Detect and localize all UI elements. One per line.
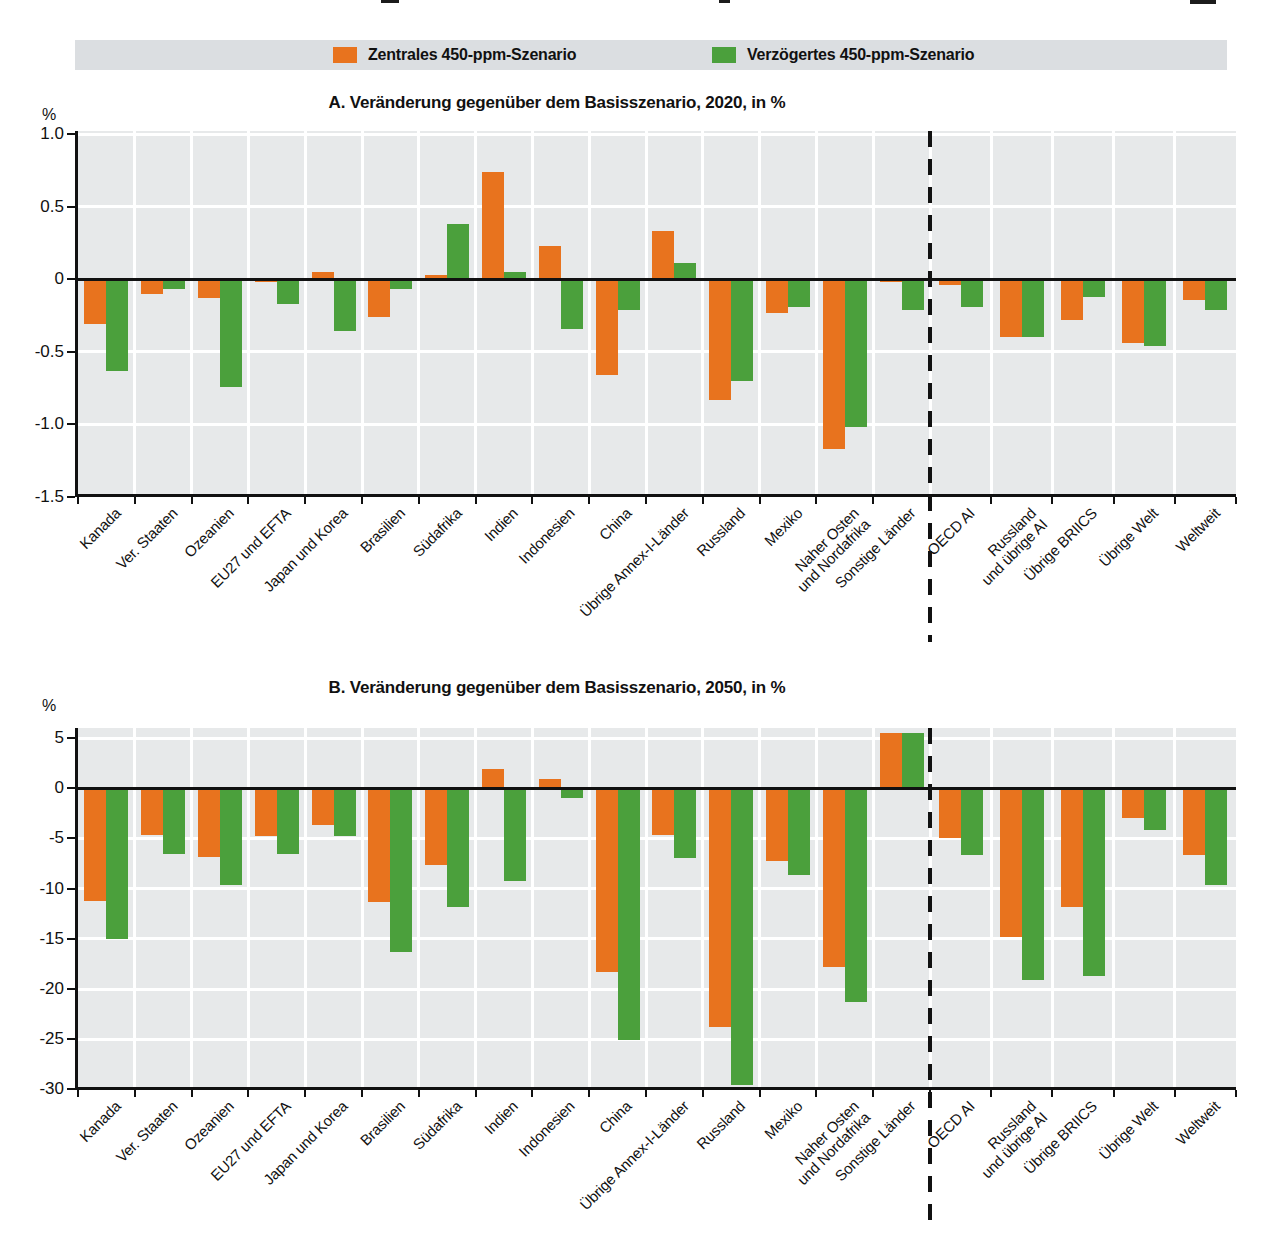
x-axis-tick: [134, 1090, 136, 1097]
x-axis-tick: [531, 1090, 533, 1097]
bar-zentrales: [1061, 279, 1083, 320]
gridline-vertical: [417, 131, 420, 497]
x-axis-line: [75, 1087, 1236, 1090]
bar-zentrales: [141, 279, 163, 294]
bar-verzoegertes: [902, 279, 924, 309]
bar-zentrales: [482, 172, 504, 279]
bar-zentrales: [1122, 279, 1144, 343]
y-tick-label: -1.5: [18, 487, 64, 507]
y-tick-label: -20: [18, 979, 64, 999]
gridline-vertical: [758, 131, 761, 497]
bar-verzoegertes: [1144, 279, 1166, 346]
x-axis-tick: [1174, 1090, 1176, 1097]
bar-zentrales: [766, 788, 788, 861]
scan-crop-artifact: [381, 0, 399, 3]
y-axis-tick: [67, 496, 75, 498]
x-axis-tick: [361, 1090, 363, 1097]
x-axis-tick: [702, 1090, 704, 1097]
bar-verzoegertes: [334, 788, 356, 836]
bar-zentrales: [539, 246, 561, 279]
gridline-vertical: [1173, 131, 1176, 497]
bar-verzoegertes: [845, 279, 867, 427]
gridline-vertical: [304, 131, 307, 497]
bar-verzoegertes: [1205, 279, 1227, 309]
x-axis-tick: [990, 1090, 992, 1097]
x-axis-tick: [191, 1090, 193, 1097]
zero-baseline: [78, 278, 1236, 281]
bar-verzoegertes: [163, 279, 185, 289]
bar-verzoegertes: [561, 788, 583, 798]
gridline-vertical: [1173, 728, 1176, 1090]
x-axis-tick: [531, 497, 533, 504]
bar-zentrales: [880, 733, 902, 788]
y-tick-label: -10: [18, 879, 64, 899]
x-axis-tick: [1113, 1090, 1115, 1097]
bar-zentrales: [312, 788, 334, 825]
x-axis-tick: [1051, 497, 1053, 504]
bar-zentrales: [368, 788, 390, 901]
bar-verzoegertes: [618, 788, 640, 1040]
bar-verzoegertes: [106, 279, 128, 370]
bar-verzoegertes: [618, 279, 640, 309]
bar-verzoegertes: [731, 279, 753, 381]
bar-zentrales: [709, 788, 731, 1027]
bar-zentrales: [596, 788, 618, 972]
bar-verzoegertes: [447, 788, 469, 906]
legend: Zentrales 450-ppm-Szenario Verzögertes 4…: [75, 40, 1227, 70]
bar-verzoegertes: [390, 788, 412, 952]
gridline-vertical: [531, 728, 534, 1090]
gridline-vertical: [361, 728, 364, 1090]
y-axis-tick: [67, 888, 75, 890]
gridline-vertical: [190, 728, 193, 1090]
x-axis-tick: [872, 1090, 874, 1097]
x-axis-tick: [304, 1090, 306, 1097]
gridline-vertical: [247, 728, 250, 1090]
panel-a-y-axis-unit: %: [34, 106, 64, 124]
y-axis-tick: [67, 938, 75, 940]
panel-b-title: B. Veränderung gegenüber dem Basisszenar…: [78, 678, 1036, 698]
x-axis-tick: [1235, 1090, 1237, 1097]
y-axis-tick: [67, 423, 75, 425]
scan-crop-artifact: [1190, 0, 1216, 4]
y-tick-label: 5: [18, 728, 64, 748]
x-axis-tick: [759, 497, 761, 504]
bar-verzoegertes: [220, 788, 242, 884]
panel-b-y-axis-unit: %: [34, 697, 64, 715]
legend-swatch-delayed-icon: [712, 47, 736, 63]
gridline-vertical: [474, 728, 477, 1090]
bar-verzoegertes: [1022, 788, 1044, 980]
y-axis-tick: [67, 787, 75, 789]
gridline-horizontal: [78, 937, 1236, 940]
x-axis-tick: [134, 497, 136, 504]
y-tick-label: -5: [18, 828, 64, 848]
gridline-vertical: [990, 131, 993, 497]
bar-zentrales: [823, 788, 845, 967]
bar-verzoegertes: [220, 279, 242, 386]
gridline-horizontal: [78, 205, 1236, 208]
gridline-horizontal: [78, 133, 1236, 136]
bar-zentrales: [1000, 279, 1022, 337]
bar-zentrales: [368, 279, 390, 317]
y-tick-label: -1.0: [18, 414, 64, 434]
x-axis-tick: [475, 1090, 477, 1097]
bar-verzoegertes: [390, 279, 412, 289]
legend-label-central: Zentrales 450-ppm-Szenario: [368, 46, 576, 64]
gridline-vertical: [872, 131, 875, 497]
gridline-vertical: [588, 728, 591, 1090]
bar-zentrales: [823, 279, 845, 449]
bar-zentrales: [1183, 279, 1205, 299]
gridline-vertical: [1112, 131, 1115, 497]
y-tick-label: -0.5: [18, 342, 64, 362]
x-axis-tick: [361, 497, 363, 504]
bar-zentrales: [1122, 788, 1144, 818]
gridline-vertical: [133, 728, 136, 1090]
bar-zentrales: [652, 231, 674, 279]
y-tick-label: 0: [18, 778, 64, 798]
x-axis-tick: [645, 1090, 647, 1097]
bar-zentrales: [1183, 788, 1205, 855]
bar-zentrales: [709, 279, 731, 400]
bar-verzoegertes: [788, 788, 810, 874]
y-axis-tick: [67, 737, 75, 739]
bar-verzoegertes: [788, 279, 810, 307]
bar-zentrales: [425, 788, 447, 865]
